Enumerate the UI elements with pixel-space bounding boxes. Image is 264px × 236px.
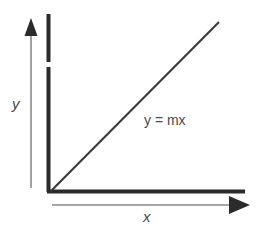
y-arrow-head <box>25 18 38 36</box>
y-direction-arrow-icon <box>25 18 38 188</box>
x-arrow-head <box>229 196 250 214</box>
x-direction-arrow-icon <box>52 196 250 214</box>
diagram-svg <box>0 0 264 236</box>
y-axis-label: y <box>12 96 20 111</box>
equation-annotation: y = mx <box>144 113 186 127</box>
diagram-canvas: y x y = mx <box>0 0 264 236</box>
x-axis-label: x <box>143 209 151 224</box>
data-line-y-equals-mx <box>51 22 219 191</box>
